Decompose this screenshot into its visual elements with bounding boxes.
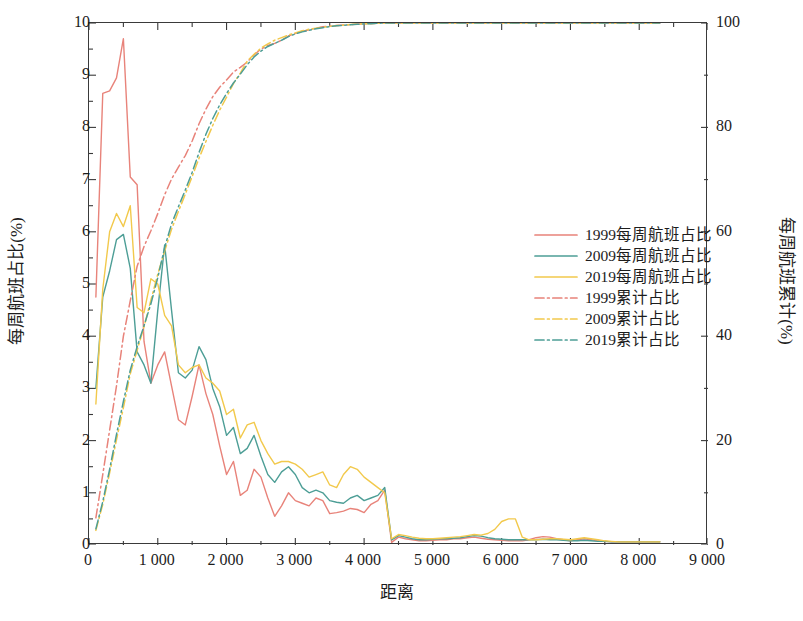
- y-left-tick-label: 5: [82, 275, 90, 291]
- y-axis-left-title: 每周航班占比(%): [2, 217, 27, 344]
- legend-item[interactable]: 1999累计占比: [534, 288, 712, 308]
- y-left-tick-label: 8: [82, 118, 90, 134]
- legend-swatch-line-icon: [534, 291, 578, 305]
- y-left-tick-label: 1: [82, 484, 90, 500]
- y-left-tick-label: 3: [82, 379, 90, 395]
- legend-label: 1999累计占比: [585, 290, 680, 306]
- y-axis-right-title: 每周航班累计(%): [776, 217, 801, 344]
- y-left-tick-label: 9: [82, 66, 90, 82]
- y-right-tick-label: 20: [716, 432, 732, 448]
- x-axis-title: 距离: [380, 578, 414, 603]
- x-tick-label: 5 000: [414, 552, 450, 568]
- y-right-tick-label: 100: [716, 14, 740, 30]
- y-right-tick-label: 60: [716, 223, 732, 239]
- y-right-tick-label: 80: [716, 118, 732, 134]
- legend-item[interactable]: 2019每周航班占比: [534, 267, 712, 287]
- legend-item[interactable]: 2009累计占比: [534, 309, 712, 329]
- legend-item[interactable]: 2019累计占比: [534, 330, 712, 350]
- legend-swatch-line-icon: [534, 312, 578, 326]
- legend-label: 2009每周航班占比: [585, 248, 712, 264]
- legend-item[interactable]: 1999每周航班占比: [534, 225, 712, 245]
- x-tick-label: 4 000: [345, 552, 381, 568]
- x-tick-label: 1 000: [139, 552, 175, 568]
- flight-distance-distribution-chart: 01234567891002040608010001 0002 0003 000…: [0, 0, 803, 621]
- legend-label: 2019累计占比: [585, 332, 680, 348]
- y-right-tick-label: 0: [716, 536, 724, 552]
- legend-swatch-line-icon: [534, 228, 578, 242]
- legend-label: 2019每周航班占比: [585, 269, 712, 285]
- y-left-tick-label: 10: [74, 14, 90, 30]
- legend-swatch-line-icon: [534, 333, 578, 347]
- legend-swatch-line-icon: [534, 249, 578, 263]
- chart-legend: 1999每周航班占比2009每周航班占比2019每周航班占比1999累计占比20…: [534, 225, 712, 350]
- y-left-tick-label: 4: [82, 327, 90, 343]
- legend-item[interactable]: 2009每周航班占比: [534, 246, 712, 266]
- y-left-tick-label: 6: [82, 223, 90, 239]
- x-tick-label: 0: [84, 552, 92, 568]
- x-tick-label: 2 000: [208, 552, 244, 568]
- x-tick-label: 8 000: [620, 552, 656, 568]
- y-left-tick-label: 2: [82, 432, 90, 448]
- legend-label: 2009累计占比: [585, 311, 680, 327]
- x-tick-label: 9 000: [689, 552, 725, 568]
- legend-swatch-line-icon: [534, 270, 578, 284]
- y-left-tick-label: 0: [82, 536, 90, 552]
- y-left-tick-label: 7: [82, 171, 90, 187]
- x-tick-label: 3 000: [276, 552, 312, 568]
- legend-label: 1999每周航班占比: [585, 227, 712, 243]
- x-tick-label: 6 000: [483, 552, 519, 568]
- y-right-tick-label: 40: [716, 327, 732, 343]
- x-tick-label: 7 000: [551, 552, 587, 568]
